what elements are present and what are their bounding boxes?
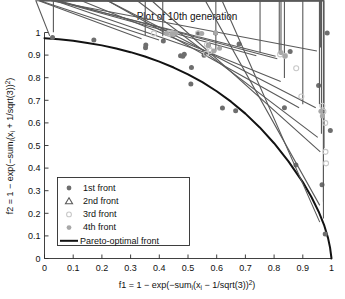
legend-label-2: 2nd front xyxy=(83,196,119,206)
data-point xyxy=(164,31,169,36)
y-axis-ticks: 00.10.20.30.40.50.60.70.80.91 xyxy=(28,28,49,264)
y-axis-title: f2 = 1 − exp(−sumi(xi + 1/sqrt(3))2) xyxy=(4,78,16,215)
data-point xyxy=(282,105,287,110)
x-tick-label: 0.2 xyxy=(96,263,109,273)
data-point xyxy=(288,49,293,54)
data-point xyxy=(199,31,204,36)
data-point xyxy=(294,66,299,71)
data-point xyxy=(324,161,329,166)
data-point xyxy=(217,46,222,51)
data-point xyxy=(283,54,288,59)
data-point xyxy=(143,42,148,47)
data-point xyxy=(182,52,187,57)
legend-label-4: 4th front xyxy=(83,222,117,232)
data-point xyxy=(50,35,55,40)
y-tick-label: 0.1 xyxy=(28,231,41,241)
data-point xyxy=(213,30,218,35)
x-tick-label: 0.1 xyxy=(67,263,80,273)
chart-title: Plot of 10th generation xyxy=(137,11,238,22)
data-point xyxy=(173,31,178,36)
y-tick-label: 0.3 xyxy=(28,186,41,196)
y-tick-label: 0.7 xyxy=(28,96,41,106)
y-tick-label: 0 xyxy=(35,254,40,264)
y-tick-label: 0.9 xyxy=(28,50,41,60)
data-point xyxy=(318,109,323,114)
data-point xyxy=(59,1,281,59)
x-tick-label: 0.5 xyxy=(182,263,195,273)
data-point xyxy=(188,82,193,87)
y-tick-label: 0.2 xyxy=(28,209,41,219)
legend-label-3: 3rd front xyxy=(83,209,117,219)
legend-marker-4 xyxy=(67,225,72,230)
legend-label-1: 1st front xyxy=(83,183,116,193)
data-point xyxy=(278,50,283,55)
y-tick-label: 0.5 xyxy=(28,141,41,151)
x-tick-label: 0.8 xyxy=(268,263,281,273)
y-tick-label: 0.4 xyxy=(28,163,41,173)
data-point xyxy=(316,83,321,88)
data-point xyxy=(233,108,238,113)
legend: 1st front2nd front3rd front4th frontPare… xyxy=(58,178,190,246)
data-point xyxy=(91,37,96,42)
legend-label-5: Pareto-optimal front xyxy=(80,236,160,246)
x-tick-label: 0.3 xyxy=(124,263,137,273)
x-tick-label: 0.9 xyxy=(297,263,310,273)
x-axis-ticks: 00.10.20.30.40.50.60.70.80.91 xyxy=(42,255,334,273)
data-point xyxy=(206,43,211,48)
x-tick-label: 0 xyxy=(42,263,47,273)
x-tick-label: 0.6 xyxy=(210,263,223,273)
data-point xyxy=(211,49,216,54)
legend-marker-1 xyxy=(67,186,72,191)
data-point xyxy=(323,232,328,237)
y-tick-label: 1 xyxy=(35,28,40,38)
x-tick-label: 0.4 xyxy=(153,263,166,273)
data-point xyxy=(320,114,325,119)
y-tick-label: 0.8 xyxy=(28,73,41,83)
x-axis-title: f1 = 1 − exp(−sumi(xi − 1/sqrt(3))2) xyxy=(119,279,256,291)
data-point xyxy=(328,128,333,133)
data-point xyxy=(220,105,225,110)
x-tick-label: 0.7 xyxy=(239,263,252,273)
x-tick-label: 1 xyxy=(329,263,334,273)
data-point xyxy=(189,65,194,70)
data-point xyxy=(325,30,330,35)
y-tick-label: 0.6 xyxy=(28,118,41,128)
chart-figure: Plot of 10th generation 00.10.20.30.40.5… xyxy=(0,0,345,299)
scatter-plot: Plot of 10th generation 00.10.20.30.40.5… xyxy=(0,0,345,299)
